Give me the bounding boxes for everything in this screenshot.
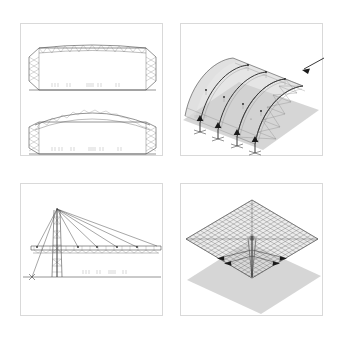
dimension-marks-ground [83, 270, 126, 274]
panel-cable-stayed-elevation [20, 183, 163, 316]
panel-barrel-vault-axonometric [180, 23, 323, 156]
stay-cables-forward [57, 209, 157, 247]
dimension-marks-flat [52, 83, 119, 87]
cable-anchor-nodes [36, 246, 138, 248]
dimension-marks-arched [52, 147, 121, 151]
annotation-arrow [302, 58, 324, 74]
arched-top-truss-elevation [29, 110, 156, 154]
panel-space-frame-axonometric [180, 183, 323, 316]
truss-deck [31, 246, 161, 253]
flat-top-truss-elevation [29, 45, 156, 90]
drawing-sheet [0, 0, 352, 340]
panel-truss-elevations [20, 23, 163, 156]
